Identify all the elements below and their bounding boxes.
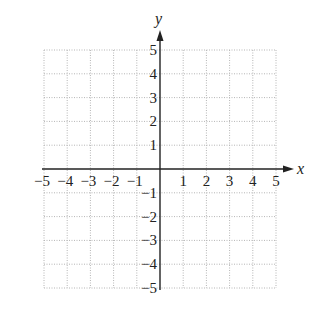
y-tick-label: −4 <box>141 256 157 272</box>
y-tick-label: 1 <box>150 137 158 153</box>
y-tick-label: 4 <box>150 66 158 82</box>
y-tick-label: 5 <box>150 42 158 58</box>
x-tick-label: 3 <box>226 173 234 189</box>
x-tick-label: 2 <box>203 173 211 189</box>
x-tick-label: 5 <box>272 173 280 189</box>
x-tick-label: −4 <box>57 173 73 189</box>
x-tick-label: −5 <box>34 173 50 189</box>
y-tick-label: 3 <box>150 90 158 106</box>
coordinate-plane: x y −5−4−3−2−112345 54321−1−2−3−4−5 <box>0 0 322 313</box>
x-axis-label: x <box>296 160 304 177</box>
y-tick-label: −3 <box>141 232 157 248</box>
y-tick-label: −1 <box>141 185 157 201</box>
x-tick-label: 4 <box>249 173 257 189</box>
y-tick-label: −2 <box>141 209 157 225</box>
y-axis-label: y <box>153 10 163 28</box>
cartesian-grid-chart: x y −5−4−3−2−112345 54321−1−2−3−4−5 <box>0 0 322 313</box>
axes <box>42 30 294 290</box>
x-tick-label: −2 <box>104 173 120 189</box>
arrow-right-icon <box>283 166 294 173</box>
x-tick-label: 1 <box>179 173 187 189</box>
x-tick-label: −3 <box>80 173 96 189</box>
y-tick-label: −5 <box>141 280 157 296</box>
arrow-up-icon <box>157 30 164 41</box>
y-tick-label: 2 <box>150 113 158 129</box>
